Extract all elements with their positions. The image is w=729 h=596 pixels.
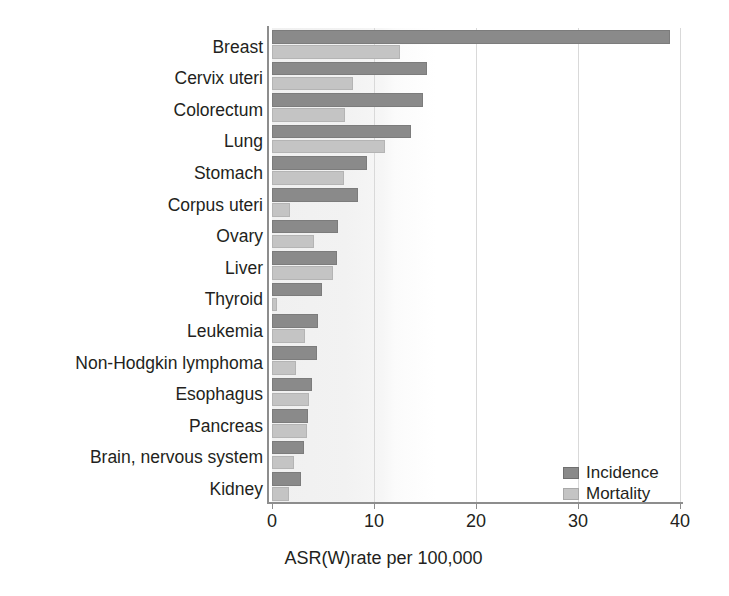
y-axis-label-breast: Breast — [0, 39, 263, 57]
y-axis-label-cervix-uteri: Cervix uteri — [0, 70, 263, 88]
legend-label-incidence: Incidence — [586, 464, 659, 481]
legend: Incidence Mortality — [563, 462, 659, 504]
bar-incidence — [272, 283, 322, 297]
y-axis-label-stomach: Stomach — [0, 165, 263, 183]
bar-mortality — [272, 361, 296, 375]
legend-item-mortality: Mortality — [563, 483, 659, 504]
bar-mortality — [272, 203, 290, 217]
y-axis-label-esophagus: Esophagus — [0, 386, 263, 404]
x-tick-mark-20 — [476, 502, 477, 509]
bar-mortality — [272, 108, 345, 122]
bar-mortality — [272, 393, 309, 407]
bar-mortality — [272, 487, 289, 501]
bar-mortality — [272, 266, 333, 280]
x-tick-label-30: 30 — [548, 511, 608, 532]
y-axis-label-pancreas: Pancreas — [0, 418, 263, 436]
bar-incidence — [272, 30, 670, 44]
gridline-30 — [578, 28, 579, 502]
bar-mortality — [272, 424, 307, 438]
y-axis-label-liver: Liver — [0, 260, 263, 278]
x-tick-label-0: 0 — [242, 511, 302, 532]
bar-incidence — [272, 409, 308, 423]
x-tick-label-40: 40 — [650, 511, 710, 532]
y-axis-label-lung: Lung — [0, 133, 263, 151]
bar-mortality — [272, 298, 277, 312]
legend-swatch-incidence-icon — [563, 467, 579, 479]
y-axis-label-thyroid: Thyroid — [0, 291, 263, 309]
x-tick-label-10: 10 — [344, 511, 404, 532]
bar-incidence — [272, 472, 301, 486]
bar-incidence — [272, 346, 317, 360]
y-axis-label-leukemia: Leukemia — [0, 323, 263, 341]
bar-mortality — [272, 235, 314, 249]
bar-incidence — [272, 188, 358, 202]
bar-mortality — [272, 329, 305, 343]
legend-swatch-mortality-icon — [563, 488, 579, 500]
bar-chart: BreastCervix uteriColorectumLungStomachC… — [0, 0, 729, 596]
x-tick-mark-40 — [680, 502, 681, 509]
bar-mortality — [272, 456, 294, 470]
x-axis-title: ASR(W)rate per 100,000 — [0, 548, 729, 569]
bar-incidence — [272, 378, 312, 392]
y-axis-label-kidney: Kidney — [0, 481, 263, 499]
bar-incidence — [272, 125, 411, 139]
gridline-20 — [476, 28, 477, 502]
y-axis-label-non-hodgkin-lymphoma: Non-Hodgkin lymphoma — [0, 355, 263, 373]
gridline-40 — [680, 28, 681, 502]
bar-mortality — [272, 45, 400, 59]
legend-label-mortality: Mortality — [586, 485, 650, 502]
legend-item-incidence: Incidence — [563, 462, 659, 483]
bar-incidence — [272, 93, 423, 107]
bar-incidence — [272, 156, 367, 170]
x-tick-mark-10 — [374, 502, 375, 509]
bar-incidence — [272, 314, 318, 328]
bar-incidence — [272, 62, 427, 76]
bar-mortality — [272, 171, 344, 185]
bar-incidence — [272, 441, 304, 455]
y-axis-label-brain-nervous-system: Brain, nervous system — [0, 449, 263, 467]
bar-incidence — [272, 220, 338, 234]
bar-mortality — [272, 140, 385, 154]
bar-mortality — [272, 77, 353, 91]
x-axis-title-text: ASR(W)rate per 100,000 — [284, 548, 482, 569]
x-tick-label-20: 20 — [446, 511, 506, 532]
y-axis-line — [267, 26, 269, 504]
x-tick-mark-0 — [272, 502, 273, 509]
y-axis-label-ovary: Ovary — [0, 228, 263, 246]
bar-incidence — [272, 251, 337, 265]
y-axis-label-colorectum: Colorectum — [0, 102, 263, 120]
y-axis-label-corpus-uteri: Corpus uteri — [0, 197, 263, 215]
